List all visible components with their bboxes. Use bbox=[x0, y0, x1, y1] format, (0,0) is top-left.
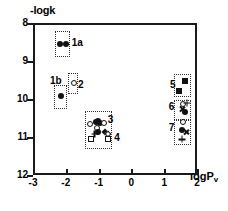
data-point bbox=[88, 136, 94, 142]
y-axis-tick-label: 10 bbox=[0, 93, 28, 104]
x-axis-tick-mark bbox=[66, 169, 68, 175]
x-axis-tick-mark bbox=[33, 169, 35, 175]
y-axis-tick-label: 11 bbox=[0, 131, 28, 142]
group-label: 3 bbox=[108, 114, 114, 125]
data-point bbox=[178, 136, 185, 143]
x-axis-tick-mark bbox=[164, 169, 166, 175]
y-axis-tick-mark bbox=[27, 61, 33, 63]
y-axis-tick-mark bbox=[27, 23, 33, 25]
x-axis-tick-mark bbox=[131, 169, 133, 175]
data-point bbox=[176, 88, 182, 94]
data-point bbox=[58, 93, 64, 99]
data-point bbox=[182, 109, 188, 115]
group-label: 1b bbox=[50, 75, 62, 86]
x-axis-tick-label: 2 bbox=[194, 177, 200, 188]
x-axis-title-subscript: v bbox=[214, 175, 218, 184]
group-label: 1a bbox=[72, 37, 83, 48]
data-point bbox=[63, 41, 69, 47]
x-axis-tick-label: 0 bbox=[129, 177, 135, 188]
data-point bbox=[182, 128, 189, 135]
x-axis-tick-mark bbox=[99, 169, 101, 175]
y-axis-tick-label: 8 bbox=[0, 17, 28, 28]
y-axis-tick-mark bbox=[27, 99, 33, 101]
y-axis-tick-label: 9 bbox=[0, 55, 28, 66]
group-label: 2 bbox=[78, 79, 84, 90]
scatter-plot: -logk logPv 89101112 -3-2-1012 1a1b23456… bbox=[0, 0, 228, 211]
x-axis-tick-mark bbox=[197, 169, 199, 175]
group-label: 6 bbox=[169, 101, 175, 112]
y-axis-tick-mark bbox=[27, 137, 33, 139]
x-axis-tick-label: -2 bbox=[61, 177, 70, 188]
x-axis-tick-label: 1 bbox=[161, 177, 167, 188]
group-label: 7 bbox=[169, 122, 175, 133]
x-axis-tick-label: -3 bbox=[29, 177, 38, 188]
y-axis-title: -logk bbox=[30, 4, 55, 16]
data-point bbox=[182, 78, 188, 84]
group-label: 4 bbox=[114, 132, 120, 143]
y-axis-tick-label: 12 bbox=[0, 169, 28, 180]
data-point bbox=[101, 120, 107, 126]
data-point bbox=[71, 80, 77, 86]
data-point bbox=[105, 136, 111, 142]
data-point bbox=[180, 119, 186, 125]
x-axis-tick-label: -1 bbox=[94, 177, 103, 188]
